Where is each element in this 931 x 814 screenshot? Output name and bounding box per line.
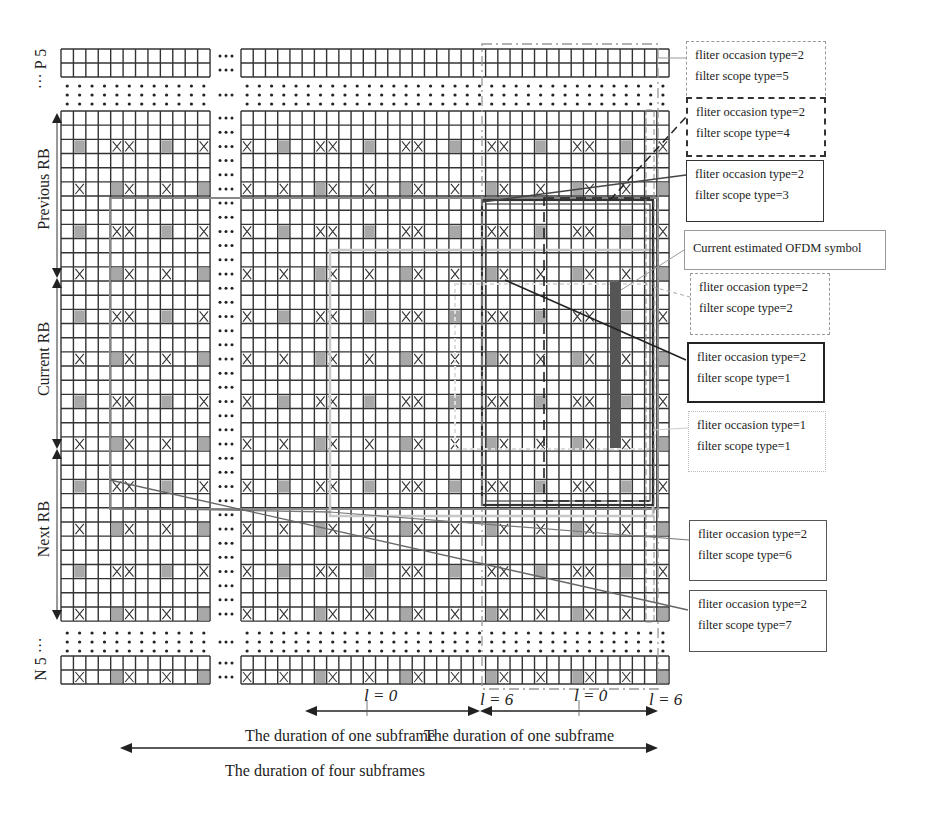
cross-cell [243, 672, 251, 682]
ellipsis-dot [625, 640, 628, 643]
cross-cell [125, 672, 133, 682]
cross-cell [243, 524, 251, 534]
ellipsis-dot [231, 457, 234, 460]
ellipsis-dot [563, 631, 566, 634]
ellipsis-dot [588, 84, 591, 87]
ellipsis-dot [331, 93, 334, 96]
ellipsis-dot [219, 94, 222, 97]
cross-cell [622, 672, 630, 682]
ellipsis-dot [128, 84, 131, 87]
ellipsis-dot [429, 640, 432, 643]
ellipsis-dot [225, 202, 228, 205]
pilot-cell [279, 565, 289, 577]
ellipsis-dot [225, 244, 228, 247]
ellipsis-dot [441, 93, 444, 96]
ellipsis-dot [115, 631, 118, 634]
cross-cell [659, 566, 667, 576]
cross-cell [414, 439, 422, 449]
pilot-cell [487, 671, 497, 683]
cross-cell [659, 311, 667, 321]
ellipsis-dot [140, 649, 143, 652]
ellipsis-dot [563, 649, 566, 652]
ellipsis-dot [246, 84, 249, 87]
cross-cell [365, 609, 373, 619]
ellipsis-dot [637, 640, 640, 643]
ellipsis-dot [177, 649, 180, 652]
pilot-cell [658, 608, 668, 620]
cross-cell [125, 524, 133, 534]
cross-cell [585, 609, 593, 619]
ellipsis-dot [649, 93, 652, 96]
ellipsis-dot [225, 343, 228, 346]
ellipsis-dot [453, 640, 456, 643]
ellipsis-dot [219, 414, 222, 417]
ellipsis-dot [219, 372, 222, 375]
ellipsis-dot [225, 428, 228, 431]
ellipsis-dot [219, 244, 222, 247]
cross-cell [280, 609, 288, 619]
callout-line1: fliter occasion type=1 [697, 415, 817, 436]
cross-cell [365, 269, 373, 279]
ellipsis-dot [270, 631, 273, 634]
ellipsis-dot [466, 84, 469, 87]
cross-cell [125, 566, 133, 576]
ellipsis-dot [190, 649, 193, 652]
cross-cell [75, 609, 83, 619]
pilot-cell [487, 608, 497, 620]
callout-current-estimated-ofdm-symbol: Current estimated OFDM symbol [684, 230, 886, 270]
ellipsis-dot [539, 84, 542, 87]
ellipsis-dot [625, 84, 628, 87]
ellipsis-dot [231, 287, 234, 290]
ellipsis-dot [225, 69, 228, 72]
ellipsis-dot [231, 372, 234, 375]
ellipsis-dot [202, 93, 205, 96]
pilot-cell [199, 671, 209, 683]
cross-cell [414, 184, 422, 194]
pilot-cell [74, 565, 84, 577]
ellipsis-dot [466, 640, 469, 643]
ellipsis-dot [490, 631, 493, 634]
cross-cell [402, 566, 410, 576]
ellipsis-dot [231, 641, 234, 644]
ellipsis-dot [380, 640, 383, 643]
ellipsis-dot [612, 84, 615, 87]
ellipsis-dot [588, 649, 591, 652]
ellipsis-dot [78, 102, 81, 105]
cross-cell [200, 226, 208, 236]
ellipsis-dot [429, 649, 432, 652]
pilot-cell [161, 565, 171, 577]
callout-line2: filter scope type=4 [696, 123, 816, 144]
cross-cell [200, 311, 208, 321]
cross-cell [125, 226, 133, 236]
cross-cell [659, 226, 667, 236]
callout-occasion1-scope1: fliter occasion type=1 filter scope type… [688, 411, 826, 472]
ellipsis-dot [625, 649, 628, 652]
cross-cell [573, 396, 581, 406]
pilot-cell [315, 438, 325, 450]
ellipsis-dot [225, 598, 228, 601]
ellipsis-dot [202, 102, 205, 105]
cross-cell [125, 481, 133, 491]
ellipsis-dot [649, 102, 652, 105]
ellipsis-dot [219, 598, 222, 601]
ellipsis-dot [202, 640, 205, 643]
cross-cell [488, 481, 496, 491]
ellipsis-dot [225, 287, 228, 290]
ellipsis-dot [637, 102, 640, 105]
ellipsis-dot [225, 145, 228, 148]
pilot-cell [279, 480, 289, 492]
symbol-index-l6-b: l = 6 [649, 690, 682, 710]
callout-occasion2-scope1: fliter occasion type=2 filter scope type… [687, 342, 825, 403]
cross-cell [622, 609, 630, 619]
cross-cell [622, 439, 630, 449]
pilot-cell [450, 225, 460, 237]
ellipsis-dot [219, 542, 222, 545]
cross-cell [500, 226, 508, 236]
ellipsis-dot [441, 631, 444, 634]
ellipsis-dot [502, 640, 505, 643]
ellipsis-dot [231, 202, 234, 205]
cross-cell [200, 396, 208, 406]
ellipsis-dot [219, 357, 222, 360]
ellipsis-dot [294, 640, 297, 643]
ellipsis-dot [231, 499, 234, 502]
